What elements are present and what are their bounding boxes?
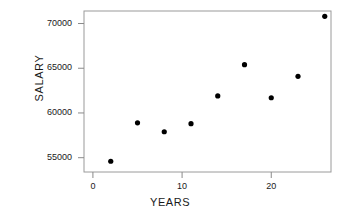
y-tick-label: 70000 — [26, 18, 72, 28]
y-tick-label: 55000 — [26, 152, 72, 162]
y-axis-title: SALARY — [33, 33, 45, 123]
x-tick-label: 10 — [167, 181, 197, 191]
x-axis-title: YEARS — [150, 196, 190, 208]
plot-frame — [84, 11, 331, 172]
data-point — [215, 93, 220, 98]
x-tick-label: 20 — [256, 181, 286, 191]
data-point — [135, 120, 140, 125]
data-point — [295, 74, 300, 79]
y-axis-tick-marks — [78, 24, 84, 158]
x-tick-label: 0 — [78, 181, 108, 191]
data-point — [242, 62, 247, 67]
scatter-plot: 55000600006500070000 01020 SALARY YEARS — [0, 0, 350, 217]
data-point — [188, 121, 193, 126]
data-point — [108, 159, 113, 164]
data-point — [162, 129, 167, 134]
x-axis-tick-marks — [93, 172, 271, 178]
data-point — [269, 95, 274, 100]
data-point — [322, 14, 327, 19]
